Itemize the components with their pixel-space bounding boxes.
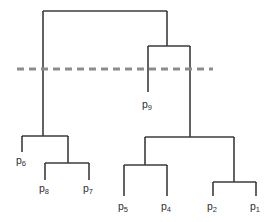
leaf-label-subscript: 4	[167, 205, 171, 214]
leaf-label-subscript: 7	[89, 187, 93, 196]
stem-line-group	[22, 11, 256, 196]
leaf-label-base: p	[161, 200, 167, 212]
leaf-label-subscript: 6	[22, 159, 26, 168]
leaf-label-p7: p7	[83, 183, 93, 194]
merge-bar-group	[22, 11, 256, 183]
leaf-label-subscript: 9	[148, 103, 152, 112]
leaf-label-subscript: 2	[213, 205, 217, 214]
leaf-label-base: p	[250, 200, 256, 212]
leaf-label-p4: p4	[161, 201, 171, 212]
leaf-label-p1: p1	[250, 201, 260, 212]
dendrogram-figure: p6p8p7p9p5p4p2p1	[0, 0, 275, 222]
leaf-label-p9: p9	[142, 99, 152, 110]
leaf-label-subscript: 1	[256, 205, 260, 214]
leaf-label-base: p	[142, 98, 148, 110]
leaf-label-p8: p8	[39, 183, 49, 194]
leaf-label-p2: p2	[207, 201, 217, 212]
leaf-label-base: p	[39, 182, 45, 194]
leaf-label-subscript: 8	[45, 187, 49, 196]
leaf-label-base: p	[16, 154, 22, 166]
leaf-label-base: p	[118, 200, 124, 212]
leaf-label-p6: p6	[16, 155, 26, 166]
leaf-label-subscript: 5	[124, 205, 128, 214]
leaf-label-p5: p5	[118, 201, 128, 212]
leaf-label-base: p	[207, 200, 213, 212]
leaf-label-base: p	[83, 182, 89, 194]
